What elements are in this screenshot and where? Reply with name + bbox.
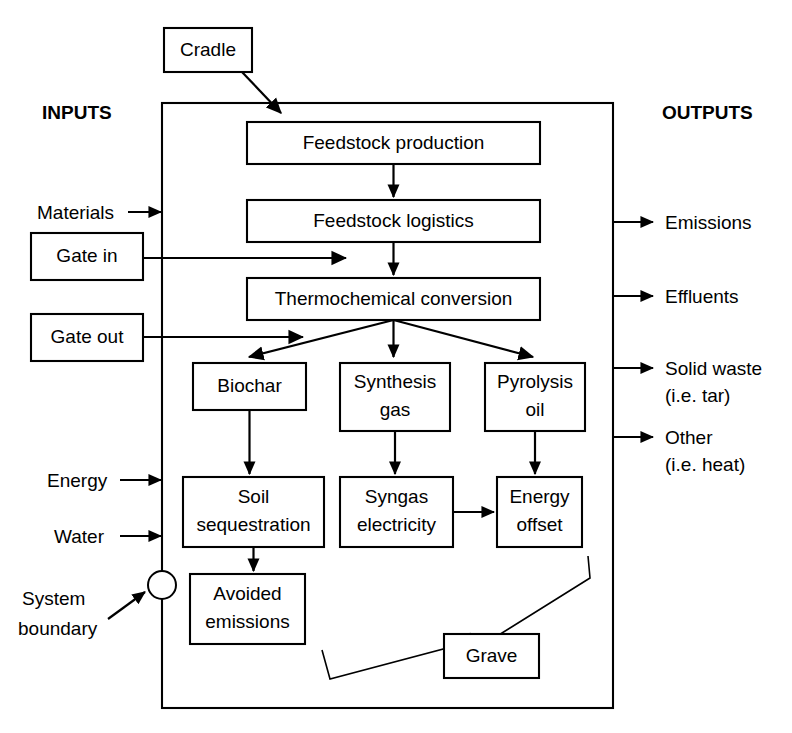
outputs-header: OUTPUTS [662,102,753,123]
thermochemical-conversion-label: Thermochemical conversion [275,288,513,309]
node-thermochemical-conversion[interactable]: Thermochemical conversion [247,278,540,320]
edge-conversion-to-pyrolysis-oil [394,320,534,357]
edge-cradle-to-feedstock-production [242,72,281,113]
node-cradle[interactable]: Cradle [164,28,252,72]
soil-sequestration-label-line1: Soil [238,486,270,507]
input-materials: Materials [37,202,161,223]
output-effluents: Effluents [613,286,739,307]
output-effluents-label: Effluents [665,286,739,307]
node-biochar[interactable]: Biochar [193,363,306,410]
cradle-label: Cradle [180,39,236,60]
avoided-emissions-label-line1: Avoided [213,583,281,604]
input-materials-label: Materials [37,202,114,223]
output-other-label-line2: (i.e. heat) [665,454,745,475]
biochar-label: Biochar [217,375,282,396]
synthesis-gas-label-line1: Synthesis [354,371,436,392]
syngas-electricity-label-line2: electricity [357,514,437,535]
output-emissions-label: Emissions [665,212,752,233]
output-other-label-line1: Other [665,427,713,448]
gate-in-label: Gate in [56,245,117,266]
node-pyrolysis-oil[interactable]: Pyrolysis oil [485,363,585,431]
output-solid-waste-label-line2: (i.e. tar) [665,385,730,406]
grave-label: Grave [466,645,518,666]
node-syngas-electricity[interactable]: Syngas electricity [340,477,453,547]
input-energy-label: Energy [47,470,108,491]
synthesis-gas-label-line2: gas [380,399,411,420]
soil-sequestration-label-line2: sequestration [196,514,310,535]
output-solid-waste: Solid waste (i.e. tar) [613,358,762,406]
node-synthesis-gas[interactable]: Synthesis gas [340,363,450,431]
output-solid-waste-label-line1: Solid waste [665,358,762,379]
output-emissions: Emissions [613,212,752,233]
diagram-canvas: INPUTS OUTPUTS Cradle Feedstock producti… [0,0,792,733]
node-feedstock-production[interactable]: Feedstock production [247,122,540,164]
system-boundary-marker-circle [148,571,176,599]
input-water: Water [54,526,161,547]
node-avoided-emissions[interactable]: Avoided emissions [190,574,305,644]
input-energy: Energy [47,470,161,491]
pyrolysis-oil-label-line1: Pyrolysis [497,371,573,392]
node-energy-offset[interactable]: Energy offset [497,477,582,547]
system-boundary-label-line1: System [22,588,85,609]
node-soil-sequestration[interactable]: Soil sequestration [183,477,324,547]
inputs-header: INPUTS [42,102,112,123]
output-other: Other (i.e. heat) [613,427,745,475]
gate-out-label: Gate out [51,326,125,347]
system-boundary-label-line2: boundary [18,618,98,639]
system-boundary-pointer-arrow [108,592,145,619]
energy-offset-label-line1: Energy [509,486,570,507]
node-feedstock-logistics[interactable]: Feedstock logistics [247,200,540,242]
edge-conversion-to-biochar [249,320,394,357]
lca-flow-diagram: INPUTS OUTPUTS Cradle Feedstock producti… [0,0,792,733]
node-grave[interactable]: Grave [444,634,539,678]
avoided-emissions-label-line2: emissions [205,611,289,632]
feedstock-logistics-label: Feedstock logistics [313,210,474,231]
node-gate-in[interactable]: Gate in [31,233,143,280]
input-water-label: Water [54,526,105,547]
feedstock-production-label: Feedstock production [303,132,485,153]
pyrolysis-oil-label-line2: oil [525,399,544,420]
energy-offset-label-line2: offset [516,514,563,535]
syngas-electricity-label-line1: Syngas [365,486,428,507]
node-gate-out[interactable]: Gate out [31,314,143,361]
